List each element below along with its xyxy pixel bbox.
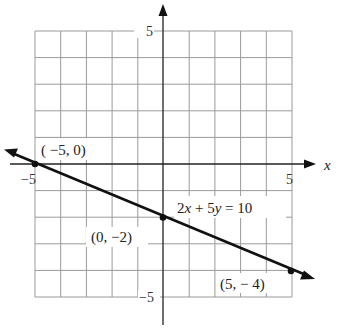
point-0-neg2 xyxy=(160,214,167,221)
line-arrow-left-icon xyxy=(4,149,18,158)
equation-label: 2x + 5y = 10 xyxy=(177,200,252,216)
label-point-5-neg4: (5, − 4) xyxy=(220,276,265,293)
x-axis-arrow-icon xyxy=(304,160,316,169)
point-5-neg4 xyxy=(288,268,295,275)
tick-y-5: 5 xyxy=(146,24,153,39)
graph: 5 −5 −5 5 x ( −5, 0) (0, −2) (5, − 4) 2x… xyxy=(0,0,341,332)
x-axis-label: x xyxy=(323,157,331,173)
y-axis-arrow-icon xyxy=(159,4,168,16)
tick-x-neg5: −5 xyxy=(21,172,36,187)
tick-y-neg5: −5 xyxy=(139,290,154,305)
line-arrow-right-icon xyxy=(300,271,315,280)
label-point-0-neg2: (0, −2) xyxy=(91,229,132,246)
point-neg5-0 xyxy=(32,161,39,168)
tick-x-5: 5 xyxy=(286,172,293,187)
label-point-neg5-0: ( −5, 0) xyxy=(41,142,86,159)
